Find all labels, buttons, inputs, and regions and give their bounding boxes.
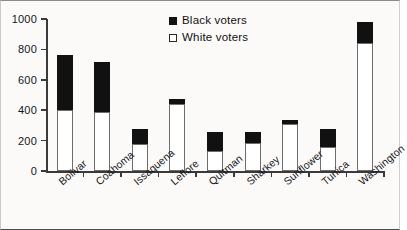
x-axis-tick [271, 171, 273, 177]
bar-segment-black-voters [57, 55, 73, 110]
bar-washington [357, 22, 373, 171]
x-axis-tick [346, 171, 348, 177]
y-axis-tick [41, 49, 47, 51]
bar-segment-black-voters [357, 22, 373, 43]
x-axis-tick [308, 171, 310, 177]
x-axis-tick [158, 171, 160, 177]
x-axis-tick [195, 171, 197, 177]
y-axis-tick-label: 200 [18, 135, 37, 147]
bar-segment-white-voters [94, 112, 110, 171]
y-axis-tick [41, 140, 47, 142]
plot-area: 02004006008001000 BolivarCoahomaIssaquen… [46, 19, 384, 171]
bar-coahoma [94, 62, 110, 171]
bar-segment-black-voters [320, 129, 336, 147]
bar-bolivar [57, 55, 73, 171]
y-axis-tick [41, 170, 47, 172]
x-axis-tick [120, 171, 122, 177]
y-axis-tick-label: 400 [18, 104, 37, 116]
y-axis-tick [41, 18, 47, 20]
x-axis-tick [83, 171, 85, 177]
y-axis-tick [41, 109, 47, 111]
bar-segment-black-voters [169, 99, 185, 104]
bar-leflore [169, 99, 185, 171]
x-axis-tick [233, 171, 235, 177]
y-axis-line [46, 19, 48, 171]
bar-segment-black-voters [94, 62, 110, 113]
y-axis-tick-label: 800 [18, 43, 37, 55]
x-axis-tick [383, 171, 385, 177]
bar-sunflower [282, 120, 298, 171]
y-axis-tick-label: 0 [31, 165, 37, 177]
y-axis-tick-label: 600 [18, 74, 37, 86]
bar-segment-black-voters [207, 132, 223, 151]
bar-segment-black-voters [245, 132, 261, 143]
bar-segment-white-voters [169, 104, 185, 171]
bar-segment-black-voters [282, 120, 298, 124]
bar-segment-black-voters [132, 129, 148, 144]
bar-segment-white-voters [57, 110, 73, 171]
bar-segment-white-voters [357, 43, 373, 171]
y-axis-tick [41, 79, 47, 81]
y-axis-tick-label: 1000 [12, 13, 37, 25]
